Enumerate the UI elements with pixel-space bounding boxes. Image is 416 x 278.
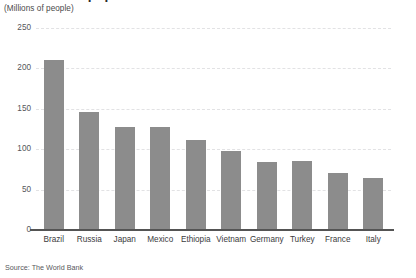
bar-group: Japan	[107, 28, 143, 230]
bars-layer: BrazilRussiaJapanMexicoEthiopiaVietnamGe…	[36, 28, 391, 230]
bar[interactable]	[292, 161, 312, 230]
bar-group: Turkey	[285, 28, 321, 230]
bar-group: Mexico	[143, 28, 179, 230]
bar-group: Italy	[356, 28, 392, 230]
plot-area: 050100150200250 BrazilRussiaJapanMexicoE…	[36, 28, 391, 230]
bar[interactable]	[363, 178, 383, 230]
x-axis-tick-label: Russia	[77, 236, 102, 244]
chart-subtitle: (Millions of people)	[4, 4, 74, 13]
bar[interactable]	[44, 60, 64, 230]
bar[interactable]	[328, 173, 348, 230]
y-axis-tick-label: 50	[22, 185, 31, 193]
chart-title: The 10 most populous countries	[4, 0, 215, 2]
bar-chart-figure: The 10 most populous countries (Millions…	[0, 0, 416, 278]
bar[interactable]	[79, 112, 99, 230]
bar-group: Germany	[249, 28, 285, 230]
x-axis-tick-label: Ethiopia	[181, 236, 211, 244]
x-axis-tick-label: France	[325, 236, 350, 244]
bar[interactable]	[257, 162, 277, 230]
source-note: Source: The World Bank	[5, 263, 83, 272]
bar[interactable]	[150, 127, 170, 230]
x-axis-tick-label: Italy	[366, 236, 381, 244]
x-axis-tick-label: Germany	[250, 236, 284, 244]
x-axis-tick-label: Turkey	[290, 236, 315, 244]
x-axis-tick-label: Mexico	[147, 236, 173, 244]
y-axis-tick-label: 150	[17, 105, 31, 113]
x-axis-tick-label: Japan	[114, 236, 136, 244]
bar-group: France	[320, 28, 356, 230]
y-axis-tick-label: 100	[17, 145, 31, 153]
x-axis-line	[30, 229, 394, 231]
y-axis-tick-label: 200	[17, 64, 31, 72]
bar-group: Ethiopia	[178, 28, 214, 230]
bar[interactable]	[115, 127, 135, 230]
bar-group: Vietnam	[214, 28, 250, 230]
bar[interactable]	[186, 140, 206, 230]
bar-group: Brazil	[36, 28, 72, 230]
x-axis-tick-label: Brazil	[44, 236, 64, 244]
bar-group: Russia	[72, 28, 108, 230]
y-axis-tick-label: 250	[17, 24, 31, 32]
x-axis-tick-label: Vietnam	[216, 236, 246, 244]
bar[interactable]	[221, 151, 241, 230]
